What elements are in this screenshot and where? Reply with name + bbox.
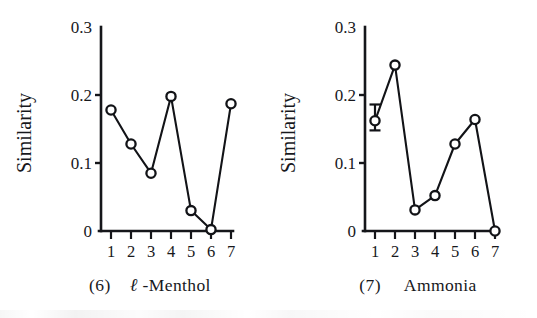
data-point-marker [166, 92, 175, 101]
x-tick-label-7-right: 7 [491, 242, 499, 261]
caption-name-left: -Menthol [143, 275, 211, 295]
y-tick-label-0-right: 0 [348, 222, 357, 241]
panel-caption-right: (7) Ammonia [359, 275, 476, 295]
x-tick-label-6-left: 6 [207, 242, 215, 261]
x-tick-label-5-left: 5 [187, 242, 195, 261]
caption-number-left: (6) [89, 275, 111, 295]
chart-panel-l-menthol: Similarity 0.3 0.2 0.1 0 1 2 3 [0, 0, 268, 318]
x-tick-label-6-right: 6 [471, 242, 479, 261]
data-point-marker [186, 206, 195, 215]
caption-number-right: (7) [359, 275, 381, 295]
y-tick-label-0.1-right: 0.1 [335, 154, 356, 173]
y-tick-label-0.2-right: 0.2 [335, 86, 356, 105]
x-tick-label-4-right: 4 [431, 242, 439, 261]
x-tick-label-2-left: 2 [127, 242, 135, 261]
figure-two-panel-similarity-plots: Similarity 0.3 0.2 0.1 0 1 2 3 [0, 0, 537, 318]
data-point-marker [430, 191, 439, 200]
data-point-marker [370, 116, 379, 125]
y-tick-label-0.2-left: 0.2 [71, 86, 92, 105]
x-tick-label-5-right: 5 [451, 242, 459, 261]
series-line-left [111, 96, 231, 229]
y-tick-label-0.3-right: 0.3 [335, 18, 356, 37]
data-point-marker [106, 105, 115, 114]
caption-italic-ell-left: ℓ [130, 275, 138, 295]
x-tick-label-7-left: 7 [227, 242, 235, 261]
data-point-marker [146, 169, 155, 178]
data-point-marker [226, 99, 235, 108]
x-tick-label-3-right: 3 [411, 242, 419, 261]
chart-panel-ammonia: Similarity 0.3 0.2 0.1 0 1 2 3 4 [268, 0, 536, 318]
x-tick-label-1-right: 1 [371, 242, 379, 261]
data-point-marker [490, 226, 499, 235]
y-axis-label-left: Similarity [13, 93, 36, 173]
data-point-marker [390, 61, 399, 70]
data-point-marker [126, 139, 135, 148]
data-point-marker [206, 225, 215, 234]
x-tick-label-2-right: 2 [391, 242, 399, 261]
caption-name-right: Ammonia [404, 275, 477, 295]
y-tick-label-0.1-left: 0.1 [71, 154, 92, 173]
data-point-marker [470, 115, 479, 124]
y-tick-label-0-left: 0 [84, 222, 93, 241]
x-tick-label-3-left: 3 [147, 242, 155, 261]
panel-caption-left: (6) ℓ -Menthol [89, 275, 211, 295]
x-tick-label-4-left: 4 [167, 242, 175, 261]
data-point-marker [450, 139, 459, 148]
data-point-marker [410, 205, 419, 214]
series-line-right [375, 65, 495, 231]
y-tick-label-0.3-left: 0.3 [71, 18, 92, 37]
series-markers-left [106, 92, 235, 234]
y-axis-label-right: Similarity [277, 93, 300, 173]
x-tick-label-1-left: 1 [107, 242, 115, 261]
